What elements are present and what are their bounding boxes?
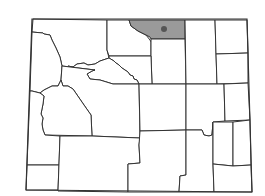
county-weston[interactable] (216, 53, 248, 84)
county-laramie[interactable] (213, 164, 252, 192)
county-natrona[interactable] (139, 84, 186, 131)
county-layer (26, 19, 252, 192)
county-goshen[interactable] (233, 120, 251, 166)
county-uinta[interactable] (26, 165, 59, 190)
location-marker-icon (161, 26, 167, 32)
county-niobrara[interactable] (224, 83, 250, 121)
wyoming-county-map (0, 0, 265, 196)
county-campbell[interactable] (185, 20, 217, 84)
county-crook[interactable] (215, 20, 248, 54)
county-platte[interactable] (213, 122, 233, 166)
county-johnson[interactable] (151, 39, 186, 84)
